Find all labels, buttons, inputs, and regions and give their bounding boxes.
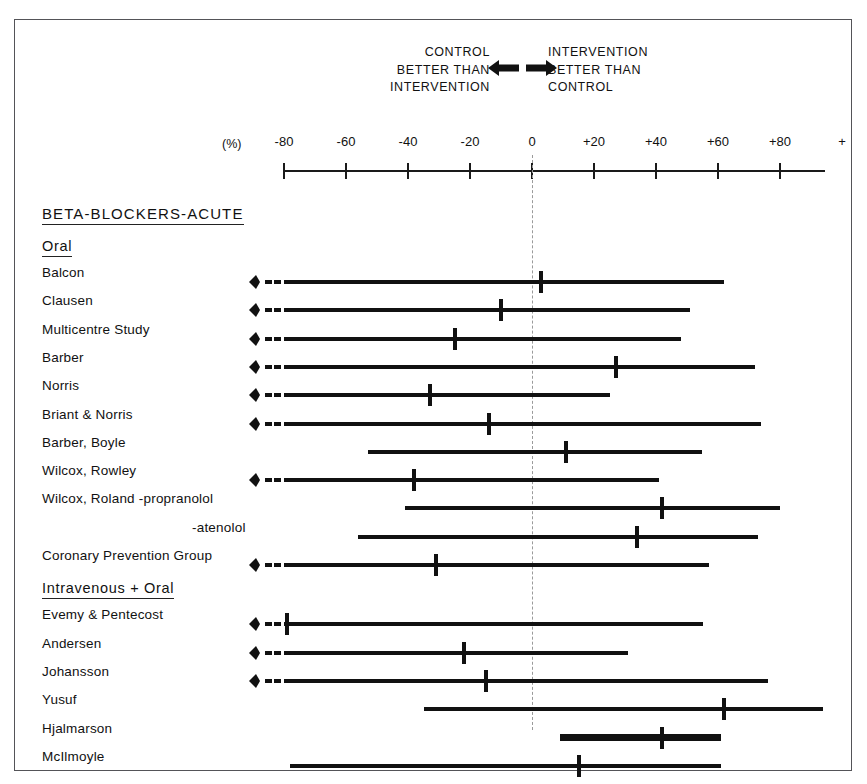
- ci-dash: [265, 651, 272, 655]
- section-title: Oral: [42, 238, 72, 257]
- ci-dash: [274, 478, 281, 482]
- confidence-interval-bar: [284, 679, 768, 683]
- study-label: Johansson: [42, 664, 109, 679]
- point-estimate-marker: [564, 441, 568, 463]
- forest-plot-figure: CONTROL BETTER THAN INTERVENTION INTERVE…: [0, 0, 867, 784]
- confidence-interval-bar: [284, 280, 724, 284]
- point-estimate-marker: [660, 497, 664, 519]
- ci-truncation-arrow-icon: [249, 616, 265, 636]
- confidence-interval-bar: [358, 535, 758, 539]
- study-label: Evemy & Pentecost: [42, 607, 163, 622]
- ci-dash: [265, 679, 272, 683]
- confidence-interval-bar: [284, 337, 681, 341]
- confidence-interval-bar: [284, 365, 755, 369]
- study-label: Wilcox, Roland -propranolol: [42, 491, 213, 506]
- ci-truncation-arrow-icon: [249, 387, 265, 407]
- ci-dash: [274, 622, 281, 626]
- study-label: Briant & Norris: [42, 407, 133, 422]
- ci-truncation-arrow-icon: [249, 302, 265, 322]
- confidence-interval-bar: [284, 393, 610, 397]
- ci-dash: [274, 651, 281, 655]
- ci-truncation-arrow-icon: [249, 472, 265, 492]
- confidence-interval-bar: [290, 764, 721, 768]
- study-label: Wilcox, Rowley: [42, 463, 136, 478]
- ci-dash: [265, 422, 272, 426]
- section-title: BETA-BLOCKERS-ACUTE: [42, 205, 244, 225]
- confidence-interval-bar: [284, 422, 761, 426]
- point-estimate-marker: [484, 670, 488, 692]
- point-estimate-marker: [412, 469, 416, 491]
- ci-truncation-arrow-icon: [249, 331, 265, 351]
- ci-dash: [274, 365, 281, 369]
- study-label: Multicentre Study: [42, 322, 150, 337]
- point-estimate-marker: [453, 328, 457, 350]
- ci-dash: [274, 422, 281, 426]
- point-estimate-marker: [499, 299, 503, 321]
- point-estimate-marker: [487, 413, 491, 435]
- ci-truncation-arrow-icon: [249, 645, 265, 665]
- study-label: Andersen: [42, 636, 101, 651]
- study-label: Yusuf: [42, 692, 77, 707]
- study-label: McIlmoyle: [42, 749, 105, 764]
- point-estimate-marker: [428, 384, 432, 406]
- confidence-interval-bar: [560, 734, 721, 741]
- study-label: Barber, Boyle: [42, 435, 126, 450]
- ci-truncation-arrow-icon: [249, 359, 265, 379]
- ci-dash: [265, 308, 272, 312]
- confidence-interval-bar: [284, 651, 628, 655]
- confidence-interval-bar: [284, 622, 703, 626]
- ci-dash: [274, 393, 281, 397]
- ci-dash: [274, 679, 281, 683]
- point-estimate-marker: [660, 727, 664, 749]
- study-label: Clausen: [42, 293, 93, 308]
- study-label: Hjalmarson: [42, 721, 112, 736]
- confidence-interval-bar: [284, 478, 659, 482]
- ci-dash: [265, 393, 272, 397]
- ci-dash: [265, 622, 272, 626]
- ci-dash: [274, 308, 281, 312]
- ci-dash: [265, 365, 272, 369]
- confidence-interval-bar: [424, 707, 824, 711]
- ci-truncation-arrow-icon: [249, 557, 265, 577]
- ci-dash: [265, 280, 272, 284]
- confidence-interval-bar: [405, 506, 780, 510]
- ci-dash: [265, 337, 272, 341]
- confidence-interval-bar: [284, 563, 709, 567]
- ci-dash: [265, 478, 272, 482]
- point-estimate-marker: [434, 554, 438, 576]
- point-estimate-marker: [462, 642, 466, 664]
- plot-area: BETA-BLOCKERS-ACUTEOralBalconClausenMult…: [0, 0, 867, 784]
- point-estimate-marker: [539, 271, 543, 293]
- study-label: Barber: [42, 350, 84, 365]
- study-label: Norris: [42, 378, 79, 393]
- ci-dash: [274, 563, 281, 567]
- point-estimate-marker: [285, 613, 289, 635]
- study-label: Balcon: [42, 265, 84, 280]
- ci-truncation-arrow-icon: [249, 673, 265, 693]
- ci-truncation-arrow-icon: [249, 274, 265, 294]
- point-estimate-marker: [577, 755, 581, 777]
- point-estimate-marker: [614, 356, 618, 378]
- ci-dash: [274, 337, 281, 341]
- ci-truncation-arrow-icon: [249, 416, 265, 436]
- point-estimate-marker: [635, 526, 639, 548]
- confidence-interval-bar: [368, 450, 703, 454]
- study-label: -atenolol: [192, 520, 246, 535]
- point-estimate-marker: [722, 698, 726, 720]
- ci-dash: [274, 280, 281, 284]
- zero-reference-line: [532, 155, 533, 730]
- study-label: Coronary Prevention Group: [42, 548, 212, 563]
- ci-dash: [265, 563, 272, 567]
- section-title: Intravenous + Oral: [42, 580, 174, 599]
- confidence-interval-bar: [284, 308, 690, 312]
